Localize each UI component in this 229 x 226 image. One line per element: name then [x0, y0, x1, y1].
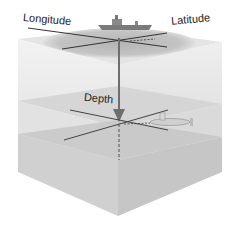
cube-diagram [0, 0, 229, 226]
depth-label: Depth [84, 91, 114, 106]
ship-icon [98, 15, 152, 30]
